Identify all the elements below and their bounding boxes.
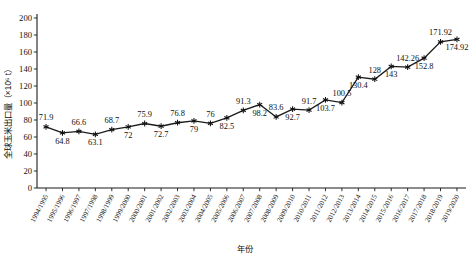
data-point-label: 128 (368, 66, 381, 75)
corn-export-line-chart: 020406080100120140160180200 1994/1995199… (0, 0, 473, 260)
data-point-label: 130.4 (349, 81, 369, 90)
x-axis-title: 年份 (237, 244, 254, 254)
y-tick-label: 180 (19, 30, 32, 40)
data-point-labels: 71.964.866.663.168.77275.972.776.8797682… (39, 28, 469, 147)
data-point-label: 91.7 (302, 97, 317, 106)
y-axis-title: 全球玉米出口量（×10⁶ t） (3, 65, 13, 159)
data-point-label: 91.3 (236, 97, 251, 106)
data-point-label: 174.92 (445, 43, 468, 52)
y-tick-label: 60 (23, 132, 32, 142)
data-point-label: 143 (385, 70, 398, 79)
y-tick-label: 140 (19, 64, 32, 74)
y-tick-label: 80 (23, 115, 32, 125)
data-point-label: 83.6 (269, 103, 284, 112)
data-point-label: 72.7 (154, 130, 169, 139)
data-point-label: 72 (124, 131, 132, 140)
y-tick-label: 100 (19, 98, 32, 108)
y-tick-label: 120 (19, 81, 32, 91)
data-point-label: 100.5 (332, 89, 351, 98)
data-point-label: 171.92 (429, 28, 452, 37)
y-tick-label: 40 (23, 149, 32, 159)
y-tick-label: 200 (19, 13, 32, 23)
data-point-label: 92.7 (285, 113, 300, 122)
data-point-label: 66.6 (72, 118, 87, 127)
y-tick-label: 0 (28, 183, 32, 193)
data-point-label: 63.1 (88, 138, 103, 147)
data-point-label: 79 (190, 125, 198, 134)
chart-canvas: 020406080100120140160180200 1994/1995199… (0, 0, 473, 260)
data-point-label: 68.7 (104, 116, 119, 125)
y-tick-label: 160 (19, 47, 32, 57)
x-axis: 1994/19951995/19961996/19971997/19981998… (29, 188, 466, 224)
data-point-label: 103.7 (316, 104, 335, 113)
data-point-label: 75.9 (137, 110, 152, 119)
data-point-label: 82.5 (220, 122, 235, 131)
data-point-label: 71.9 (39, 113, 54, 122)
y-tick-label: 20 (23, 166, 32, 176)
data-point-label: 64.8 (55, 137, 70, 146)
data-point-label: 76 (206, 110, 214, 119)
data-point-label: 76.8 (170, 109, 185, 118)
data-point-label: 98.2 (252, 109, 267, 118)
y-axis: 020406080100120140160180200 (19, 13, 37, 193)
data-point-label: 152.8 (415, 62, 434, 71)
